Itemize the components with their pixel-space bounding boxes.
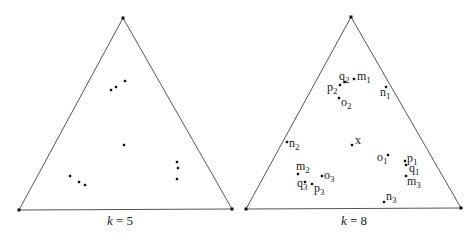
panel-caption: k = 5 [107,213,133,228]
data-point [404,160,406,162]
vertex-point [350,16,353,19]
data-point [339,84,341,86]
panel-caption: k = 8 [341,213,367,228]
point-label: n3 [386,189,397,205]
data-point [286,141,288,143]
data-point [321,175,323,177]
vertex-point [231,208,234,211]
point-label: o3 [324,168,335,184]
data-point [69,175,71,177]
point-label: n1 [380,85,391,101]
data-point [78,181,80,183]
data-point [84,184,86,186]
data-point [383,201,385,203]
point-label: m2 [296,159,310,175]
data-point [176,161,178,163]
panel-k5: k = 5 [18,17,234,229]
data-point [353,78,355,80]
point-label: n2 [289,136,300,152]
data-point [297,173,299,175]
point-label: o2 [341,95,352,111]
diagram-canvas: k = 5 m1q2p2o2n1n2xm2q3p3o3o1p1q1m3n3k =… [0,0,476,238]
data-point [351,144,353,146]
data-point [123,144,125,146]
data-point [124,80,126,82]
point-label: q3 [297,176,308,192]
data-point [177,167,179,169]
point-label: p2 [327,80,338,96]
triangle [19,18,232,210]
data-point [405,164,407,166]
data-point [176,178,178,180]
point-label: q2 [339,69,350,85]
panel-k8: m1q2p2o2n1n2xm2q3p3o3o1p1q1m3n3k = 8 [245,16,463,229]
data-point [311,183,313,185]
triangle [246,17,461,209]
vertex-point [122,17,125,20]
point-label: o1 [377,150,388,166]
vertex-point [245,208,248,211]
vertex-point [18,209,21,212]
point-label: m1 [357,69,371,85]
data-point [338,97,340,99]
point-label: x [355,133,361,147]
point-label: p3 [314,181,325,197]
vertex-point [460,207,463,210]
data-point [115,86,117,88]
data-point [110,89,112,91]
